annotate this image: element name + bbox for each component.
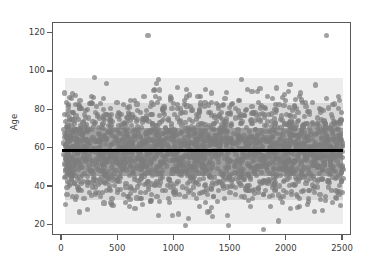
data-point [249, 165, 254, 170]
data-point [270, 193, 275, 198]
y-tick-label: 120 [29, 26, 45, 39]
data-point [280, 194, 285, 199]
data-point [128, 191, 133, 196]
data-point [241, 175, 246, 180]
data-point [190, 107, 195, 112]
data-point [77, 105, 82, 110]
data-point [340, 176, 345, 181]
data-point [286, 89, 291, 94]
data-point [259, 170, 264, 175]
data-point [326, 105, 331, 110]
data-point [203, 200, 208, 205]
data-point [98, 101, 103, 106]
data-point [268, 204, 273, 209]
data-point [310, 163, 315, 168]
data-point [239, 77, 244, 82]
data-point [108, 106, 113, 111]
data-point [100, 121, 105, 126]
data-point [156, 213, 161, 218]
data-point [292, 182, 297, 187]
data-point [167, 200, 172, 205]
data-point [169, 106, 174, 111]
data-point [340, 155, 345, 160]
data-point [338, 203, 343, 208]
data-point [209, 165, 214, 170]
data-point [288, 132, 293, 137]
data-point [67, 181, 72, 186]
data-point [111, 154, 116, 159]
data-point [222, 96, 227, 101]
data-point [305, 202, 310, 207]
data-point [271, 182, 276, 187]
data-point [175, 85, 180, 90]
data-point [256, 185, 261, 190]
data-point [64, 192, 69, 197]
data-point [292, 158, 297, 163]
data-point [333, 188, 338, 193]
data-point [192, 127, 197, 132]
data-point [110, 203, 115, 208]
y-tick-label: 40 [34, 180, 45, 193]
data-point [222, 196, 227, 201]
data-point [184, 163, 189, 168]
data-point [288, 206, 293, 211]
data-point [224, 90, 229, 95]
data-point [261, 227, 266, 232]
data-point [81, 196, 86, 201]
data-point [232, 170, 237, 175]
data-point [154, 81, 159, 86]
data-point [197, 204, 202, 209]
data-point [315, 121, 320, 126]
data-point [75, 143, 80, 148]
data-point [139, 173, 144, 178]
data-point [325, 134, 330, 139]
data-point [249, 89, 254, 94]
data-point [323, 125, 328, 130]
data-point [208, 157, 213, 162]
data-point [235, 140, 240, 145]
data-point [149, 192, 154, 197]
data-point [207, 174, 212, 179]
data-point [215, 166, 220, 171]
x-tick-mark [60, 235, 61, 240]
data-point [336, 94, 341, 99]
data-point [158, 179, 163, 184]
data-point [197, 191, 202, 196]
x-tick-label: 0 [58, 242, 63, 255]
data-point [165, 152, 170, 157]
data-point [139, 140, 144, 145]
data-point [219, 129, 224, 134]
data-point [336, 106, 341, 111]
data-point [226, 223, 231, 228]
data-point [280, 200, 285, 205]
y-tick-label: 100 [29, 64, 45, 77]
data-point [89, 193, 94, 198]
data-point [124, 126, 129, 131]
data-point [287, 105, 292, 110]
data-point [264, 164, 269, 169]
data-point [323, 198, 328, 203]
data-point [248, 204, 253, 209]
data-point [302, 130, 307, 135]
data-point [249, 104, 254, 109]
data-point [185, 170, 190, 175]
y-tick-label: 60 [34, 141, 45, 154]
data-point [226, 164, 231, 169]
data-point [71, 155, 76, 160]
y-tick-label: 80 [34, 103, 45, 116]
data-point [312, 209, 317, 214]
data-point [184, 94, 189, 99]
data-point [215, 199, 220, 204]
data-point [280, 118, 285, 123]
data-point [91, 95, 96, 100]
data-point [302, 174, 307, 179]
data-point [261, 192, 266, 197]
data-point [163, 126, 168, 131]
data-point [146, 187, 151, 192]
data-point [281, 103, 286, 108]
data-point [233, 192, 238, 197]
data-point [139, 196, 144, 201]
data-point [145, 33, 150, 38]
x-tick-mark [173, 235, 174, 240]
data-point [248, 177, 253, 182]
